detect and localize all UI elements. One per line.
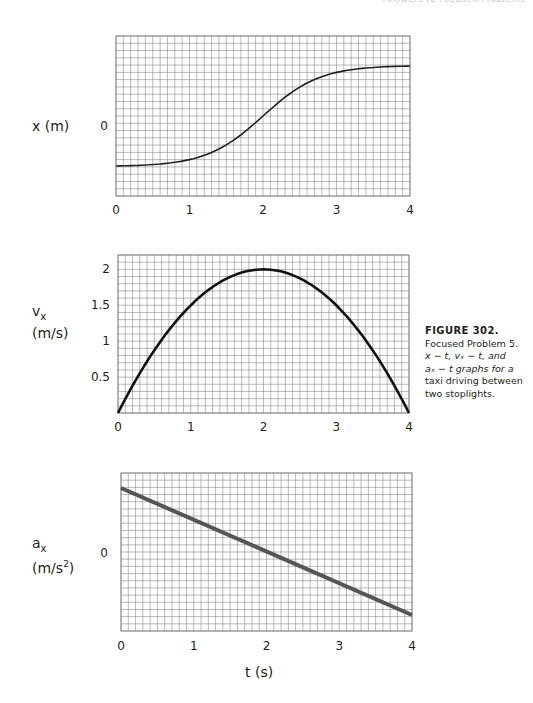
y-tick-label: 1 bbox=[102, 334, 110, 348]
caption-line: taxi driving between bbox=[425, 375, 533, 388]
v-units: (m/s) bbox=[32, 325, 69, 341]
time-axis-label: t (s) bbox=[245, 664, 273, 680]
x-tick-label: 3 bbox=[333, 203, 341, 217]
y-tick-label: 0.5 bbox=[91, 370, 110, 384]
a-symbol: a bbox=[32, 535, 41, 551]
x-axis-ylabel: x (m) bbox=[32, 118, 69, 135]
v-subscript: x bbox=[40, 311, 46, 322]
x-tick-label: 2 bbox=[260, 420, 268, 434]
x-tick-label: 2 bbox=[259, 203, 267, 217]
y-tick-label: 1.5 bbox=[91, 298, 110, 312]
caption-line: aₓ − t graphs for a bbox=[425, 363, 533, 376]
x-tick-label: 3 bbox=[332, 420, 340, 434]
y-tick-label: 2 bbox=[102, 262, 110, 276]
v-t-grid bbox=[118, 255, 409, 413]
x-tick-label: 3 bbox=[335, 639, 343, 653]
x-tick-label: 1 bbox=[186, 203, 194, 217]
x-tick-label: 1 bbox=[190, 639, 198, 653]
a-units: (m/s2) bbox=[32, 560, 74, 576]
x-tick-label: 4 bbox=[406, 203, 414, 217]
x-tick-label: 2 bbox=[263, 639, 271, 653]
a-axis-ylabel: ax (m/s2) bbox=[32, 535, 74, 577]
y-tick-zero: 0 bbox=[100, 546, 108, 560]
v-axis-ylabel: vx (m/s) bbox=[32, 303, 69, 342]
x-tick-label: 4 bbox=[405, 420, 413, 434]
figure-number: FIGURE 302. bbox=[425, 325, 533, 338]
x-tick-label: 1 bbox=[187, 420, 195, 434]
x-tick-label: 4 bbox=[408, 639, 416, 653]
x-tick-label: 0 bbox=[114, 420, 122, 434]
caption-line: x − t, vₓ − t, and bbox=[425, 350, 533, 363]
x-tick-label: 0 bbox=[117, 639, 125, 653]
caption-line: two stoplights. bbox=[425, 388, 533, 401]
figure-caption: FIGURE 302. Focused Problem 5. x − t, vₓ… bbox=[425, 325, 533, 400]
x-tick-label: 0 bbox=[112, 203, 120, 217]
y-tick-zero: 0 bbox=[100, 119, 108, 133]
caption-line: Focused Problem 5. bbox=[425, 338, 533, 351]
a-subscript: x bbox=[41, 543, 47, 554]
